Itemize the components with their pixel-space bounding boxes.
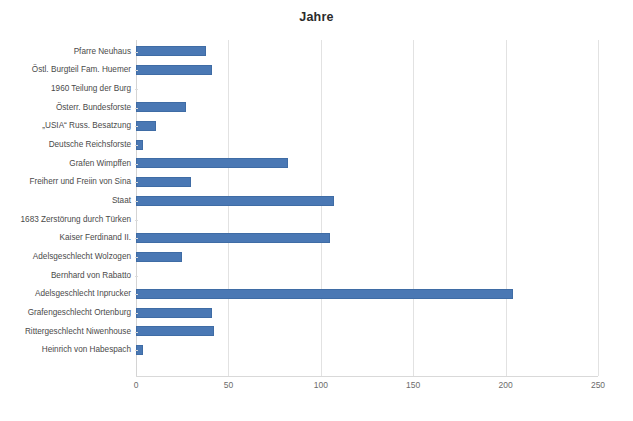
gridline-250	[598, 40, 599, 376]
bar-row	[136, 98, 598, 117]
category-tickmark	[135, 313, 138, 314]
bar-row	[136, 154, 598, 173]
category-tickmark	[135, 238, 138, 239]
category-label: Östl. Burgteil Fam. Huemer	[0, 65, 131, 75]
bar[interactable]	[136, 326, 214, 336]
bar-row	[136, 210, 598, 229]
category-tickmark	[135, 108, 138, 109]
bar-row	[136, 173, 598, 192]
value-axis-tick-labels: 050100150200250	[136, 380, 598, 396]
category-label: Deutsche Reichsforste	[0, 140, 131, 150]
chart-title: Jahre	[0, 10, 633, 24]
category-label: Bernhard von Rabatto	[0, 271, 131, 281]
category-tickmark	[135, 294, 138, 295]
bar-row	[136, 248, 598, 267]
category-label: Freiherr und Freiin von Sina	[0, 177, 131, 187]
category-label: Kaiser Ferdinand II.	[0, 233, 131, 243]
tick-label-50: 50	[224, 380, 233, 390]
category-tickmark	[135, 350, 138, 351]
category-axis-labels: Pfarre NeuhausÖstl. Burgteil Fam. Huemer…	[0, 40, 131, 376]
bar-row	[136, 304, 598, 323]
bar[interactable]	[136, 196, 334, 206]
bar[interactable]	[136, 65, 212, 75]
bar[interactable]	[136, 177, 191, 187]
category-tickmark	[135, 52, 138, 53]
category-tickmark	[135, 89, 138, 90]
category-tickmark	[135, 220, 138, 221]
category-label: Adelsgeschlecht Inprucker	[0, 289, 131, 299]
bar-row	[136, 322, 598, 341]
category-tickmark	[135, 257, 138, 258]
category-label: Rittergeschlecht Niwenhouse	[0, 327, 131, 337]
bar[interactable]	[136, 252, 182, 262]
bar[interactable]	[136, 158, 288, 168]
category-tickmark	[135, 276, 138, 277]
category-label: Österr. Bundesforste	[0, 103, 131, 113]
bar[interactable]	[136, 289, 513, 299]
tick-label-100: 100	[314, 380, 328, 390]
category-tickmark	[135, 332, 138, 333]
category-label: 1960 Teilung der Burg	[0, 84, 131, 94]
category-label: „USIA“ Russ. Besatzung	[0, 121, 131, 131]
category-tickmark	[135, 126, 138, 127]
bar-chart: Jahre Pfarre NeuhausÖstl. Burgteil Fam. …	[0, 0, 633, 421]
bar-row	[136, 117, 598, 136]
bar[interactable]	[136, 308, 212, 318]
tick-label-250: 250	[591, 380, 605, 390]
category-tickmark	[135, 164, 138, 165]
bar-row	[136, 42, 598, 61]
bar[interactable]	[136, 102, 186, 112]
bar-row	[136, 285, 598, 304]
category-label: Heinrich von Habespach	[0, 345, 131, 355]
category-label: Pfarre Neuhaus	[0, 47, 131, 57]
category-tickmark	[135, 182, 138, 183]
bar-row	[136, 80, 598, 99]
bar-row	[136, 61, 598, 80]
category-label: Grafen Wimpffen	[0, 159, 131, 169]
category-label: 1683 Zerstörung durch Türken	[0, 215, 131, 225]
bar-row	[136, 341, 598, 360]
category-label: Grafengeschlecht Ortenburg	[0, 308, 131, 318]
plot-area	[136, 40, 598, 376]
bar[interactable]	[136, 121, 156, 131]
tick-label-200: 200	[499, 380, 513, 390]
category-tickmark	[135, 201, 138, 202]
bar[interactable]	[136, 46, 206, 56]
category-label: Adelsgeschlecht Wolzogen	[0, 252, 131, 262]
bar-row	[136, 229, 598, 248]
bar-row	[136, 136, 598, 155]
category-label: Staat	[0, 196, 131, 206]
bar-row	[136, 266, 598, 285]
category-tickmark	[135, 145, 138, 146]
tick-label-150: 150	[406, 380, 420, 390]
bar-row	[136, 192, 598, 211]
bar[interactable]	[136, 233, 330, 243]
tick-label-0: 0	[134, 380, 139, 390]
value-axis-line	[136, 376, 598, 377]
category-tickmark	[135, 70, 138, 71]
